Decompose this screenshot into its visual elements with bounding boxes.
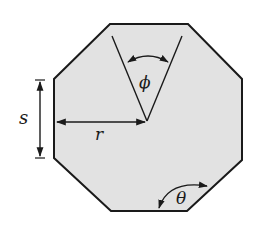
interior-angle-label: θ	[176, 188, 186, 208]
side-label: s	[19, 107, 28, 128]
central-angle-label: ϕ	[139, 72, 151, 92]
radius-label: r	[95, 124, 104, 144]
octagon-diagram: ϕ r s θ	[0, 0, 264, 231]
